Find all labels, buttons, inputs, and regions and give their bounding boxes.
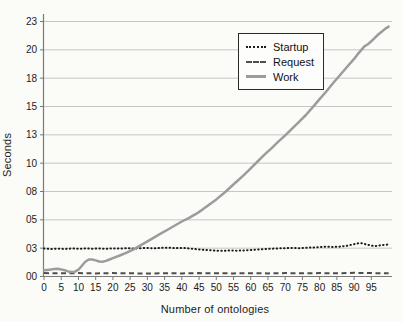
legend-label-startup: Startup xyxy=(273,41,308,53)
x-tick-label: 90 xyxy=(349,282,361,293)
request-dashed-line-swatch xyxy=(246,61,266,63)
startup-dotted-line-swatch xyxy=(246,46,266,48)
series-work-line xyxy=(44,27,389,272)
x-tick-label: 55 xyxy=(228,282,240,293)
x-tick-label: 25 xyxy=(125,282,137,293)
x-tick-label: 35 xyxy=(159,282,171,293)
x-tick-label: 70 xyxy=(280,282,292,293)
x-tick-label: 0 xyxy=(41,282,47,293)
legend-label-work: Work xyxy=(273,71,298,83)
y-axis-title: Seconds xyxy=(1,115,15,195)
x-tick-label: 10 xyxy=(73,282,85,293)
x-axis-title: Number of ontologies xyxy=(115,303,315,315)
y-tick-label: 08 xyxy=(26,186,38,197)
x-tick-label: 50 xyxy=(211,282,223,293)
y-tick-label: 05 xyxy=(26,214,38,225)
y-tick-label: 18 xyxy=(26,73,38,84)
plot-area: 0003050810131518202305101520253035404550… xyxy=(0,0,403,322)
x-tick-label: 15 xyxy=(90,282,102,293)
legend-item-startup: Startup xyxy=(246,39,314,54)
x-tick-label: 75 xyxy=(297,282,309,293)
x-tick-label: 30 xyxy=(142,282,154,293)
y-tick-label: 20 xyxy=(26,44,38,55)
chart-figure: 0003050810131518202305101520253035404550… xyxy=(0,0,403,322)
series-request-line xyxy=(44,273,389,274)
legend: Startup Request Work xyxy=(238,33,324,90)
x-tick-label: 60 xyxy=(245,282,257,293)
legend-item-request: Request xyxy=(246,54,314,69)
x-tick-label: 80 xyxy=(314,282,326,293)
x-tick-label: 5 xyxy=(58,282,64,293)
legend-label-request: Request xyxy=(273,56,314,68)
y-tick-label: 03 xyxy=(26,243,38,254)
axes xyxy=(44,14,393,277)
y-tick-label: 13 xyxy=(26,129,38,140)
x-tick-label: 40 xyxy=(176,282,188,293)
y-tick-label: 00 xyxy=(26,271,38,282)
y-tick-label: 23 xyxy=(26,16,38,27)
y-tick-label: 15 xyxy=(26,101,38,112)
x-tick-label: 45 xyxy=(193,282,205,293)
x-tick-label: 95 xyxy=(366,282,378,293)
y-tick-label: 10 xyxy=(26,158,38,169)
work-solid-line-swatch xyxy=(246,75,266,78)
series-startup-line xyxy=(44,243,389,251)
legend-item-work: Work xyxy=(246,69,314,84)
x-tick-label: 65 xyxy=(262,282,274,293)
x-tick-label: 20 xyxy=(107,282,119,293)
x-tick-label: 85 xyxy=(331,282,343,293)
